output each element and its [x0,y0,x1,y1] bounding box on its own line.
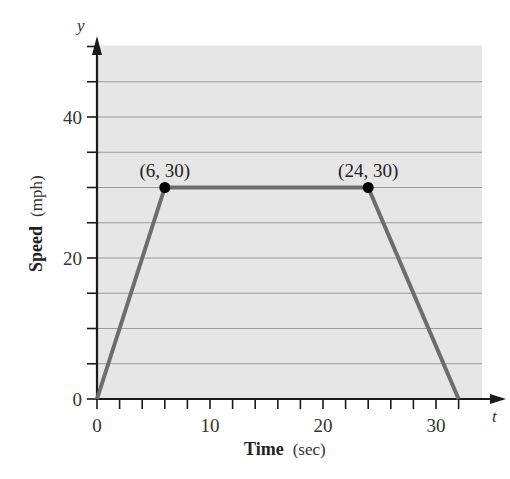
data-point-marker [363,182,374,193]
y-axis-title: Speed (mph) [26,175,46,272]
y-axis-variable: y [75,16,85,35]
x-axis-arrow-icon [490,394,506,404]
x-axis-title: Time (sec) [244,439,326,459]
y-tick-label: 40 [63,107,82,128]
data-point-marker [159,182,170,193]
x-tick-label: 10 [201,415,220,436]
x-axis-title-unit: (sec) [293,440,326,459]
point-annotation: (24, 30) [338,160,398,182]
point-annotation: (6, 30) [139,160,190,182]
y-tick-label: 0 [73,389,83,410]
x-tick-label: 30 [427,415,446,436]
x-tick-label: 20 [314,415,333,436]
x-tick-label: 0 [92,415,102,436]
y-tick-label: 20 [63,248,82,269]
x-axis-title-main: Time [244,439,284,459]
y-axis-title-main: Speed [26,226,46,272]
speed-time-chart: 010203002040 (6, 30)(24, 30) y t Time (s… [0,0,510,479]
y-axis-title-unit: (mph) [27,175,46,217]
t-axis-variable: t [492,407,498,426]
